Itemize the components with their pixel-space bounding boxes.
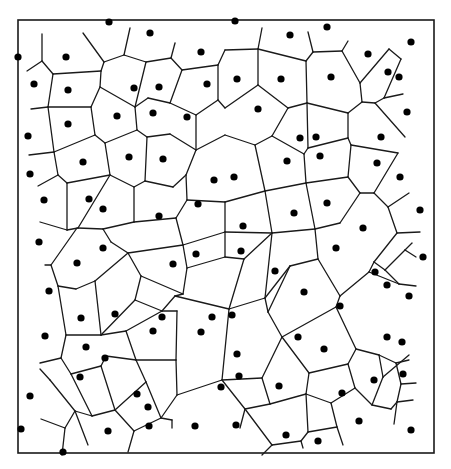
voronoi-edge bbox=[362, 102, 375, 103]
voronoi-edge bbox=[309, 364, 348, 373]
site-point bbox=[338, 389, 345, 396]
voronoi-edge bbox=[225, 257, 244, 259]
voronoi-edge bbox=[146, 382, 161, 418]
voronoi-edge bbox=[78, 175, 110, 228]
voronoi-edge bbox=[51, 265, 58, 286]
site-point bbox=[228, 311, 235, 318]
voronoi-edge bbox=[161, 395, 177, 418]
site-point bbox=[294, 333, 301, 340]
voronoi-edge bbox=[340, 272, 369, 296]
voronoi-edge bbox=[388, 193, 409, 207]
voronoi-edge bbox=[128, 245, 183, 253]
voronoi-edge bbox=[75, 411, 88, 445]
voronoi-edge bbox=[106, 356, 136, 360]
voronoi-edge bbox=[372, 405, 391, 409]
voronoi-edge bbox=[183, 232, 225, 245]
voronoi-edge bbox=[91, 107, 95, 135]
site-point bbox=[111, 310, 118, 317]
voronoi-edge bbox=[54, 152, 58, 175]
voronoi-edge bbox=[92, 410, 115, 416]
voronoi-edge bbox=[374, 193, 388, 207]
site-point bbox=[169, 260, 176, 267]
voronoi-edge bbox=[137, 130, 147, 137]
voronoi-edge bbox=[105, 143, 110, 175]
voronoi-edge bbox=[225, 85, 258, 108]
voronoi-edge bbox=[104, 55, 124, 62]
voronoi-edge bbox=[342, 51, 360, 83]
site-point bbox=[314, 437, 321, 444]
voronoi-edge bbox=[147, 134, 170, 137]
site-point bbox=[416, 206, 423, 213]
voronoi-edge bbox=[171, 43, 175, 58]
voronoi-edge bbox=[348, 364, 355, 388]
site-point bbox=[373, 159, 380, 166]
voronoi-edge bbox=[40, 369, 50, 380]
site-point bbox=[370, 376, 377, 383]
voronoi-edge bbox=[401, 383, 416, 384]
voronoi-edge bbox=[126, 331, 136, 360]
site-point bbox=[101, 354, 108, 361]
voronoi-edge bbox=[348, 138, 351, 145]
site-point bbox=[191, 422, 198, 429]
voronoi-edge bbox=[136, 360, 146, 382]
voronoi-edge bbox=[268, 312, 282, 337]
voronoi-edge bbox=[356, 349, 379, 355]
voronoi-edge bbox=[265, 233, 272, 298]
site-point bbox=[64, 120, 71, 127]
voronoi-edge bbox=[348, 177, 360, 193]
voronoi-edge bbox=[61, 335, 66, 358]
site-point bbox=[130, 84, 137, 91]
voronoi-edge bbox=[170, 103, 196, 115]
voronoi-edge bbox=[306, 183, 315, 229]
voronoi-sites bbox=[14, 17, 426, 455]
voronoi-edge bbox=[115, 382, 146, 410]
voronoi-edge bbox=[110, 175, 134, 187]
voronoi-edge bbox=[258, 28, 262, 49]
site-point bbox=[396, 173, 403, 180]
voronoi-edge bbox=[306, 394, 331, 403]
voronoi-edge bbox=[306, 177, 348, 183]
site-point bbox=[40, 196, 47, 203]
voronoi-edge bbox=[288, 103, 307, 108]
site-point bbox=[232, 421, 239, 428]
site-point bbox=[35, 238, 42, 245]
voronoi-edge bbox=[128, 431, 134, 452]
voronoi-diagram bbox=[0, 0, 451, 469]
site-point bbox=[239, 222, 246, 229]
site-point bbox=[24, 132, 31, 139]
voronoi-edge bbox=[262, 337, 282, 378]
voronoi-edge bbox=[145, 181, 173, 187]
voronoi-edge bbox=[360, 49, 389, 83]
voronoi-edge bbox=[31, 107, 48, 109]
voronoi-edge bbox=[399, 284, 416, 286]
voronoi-edge bbox=[272, 229, 315, 233]
site-point bbox=[320, 345, 327, 352]
site-point bbox=[419, 253, 426, 260]
voronoi-edge bbox=[270, 394, 306, 404]
voronoi-edge bbox=[29, 152, 54, 155]
voronoi-edge bbox=[375, 103, 405, 137]
site-point bbox=[316, 152, 323, 159]
voronoi-edge bbox=[177, 380, 222, 395]
voronoi-edge bbox=[61, 358, 71, 374]
site-point bbox=[26, 170, 33, 177]
site-point bbox=[403, 108, 410, 115]
voronoi-edge bbox=[258, 85, 288, 108]
voronoi-edge bbox=[318, 259, 340, 296]
voronoi-edge bbox=[126, 311, 162, 331]
site-point bbox=[30, 80, 37, 87]
site-point bbox=[149, 109, 156, 116]
site-point bbox=[82, 343, 89, 350]
site-point bbox=[323, 199, 330, 206]
voronoi-edge bbox=[265, 191, 272, 233]
site-point bbox=[237, 247, 244, 254]
voronoi-edge bbox=[225, 232, 272, 233]
voronoi-edge bbox=[38, 175, 58, 186]
voronoi-edge bbox=[50, 380, 75, 411]
voronoi-edge bbox=[313, 51, 342, 52]
site-point bbox=[197, 48, 204, 55]
site-point bbox=[41, 332, 48, 339]
voronoi-edge bbox=[95, 253, 128, 281]
voronoi-edge bbox=[229, 259, 244, 309]
voronoi-edge bbox=[336, 307, 356, 349]
